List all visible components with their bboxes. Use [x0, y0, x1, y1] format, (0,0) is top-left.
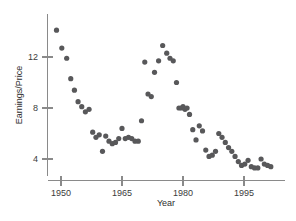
x-tick-label: 1950: [51, 188, 71, 198]
data-point: [184, 105, 189, 110]
data-point: [152, 70, 157, 75]
data-point: [156, 58, 161, 63]
data-point: [245, 158, 250, 163]
y-axis-title: Earnings/Price: [14, 66, 24, 125]
data-point: [59, 45, 64, 50]
data-point: [258, 156, 263, 161]
data-point: [255, 165, 260, 170]
data-point: [90, 130, 95, 135]
data-point: [200, 128, 205, 133]
y-tick-label: 8: [33, 103, 38, 113]
data-point: [139, 118, 144, 123]
scatter-chart: 4812 1950196519801995 Earnings/Price Yea…: [0, 0, 296, 221]
data-point: [203, 147, 208, 152]
data-point: [190, 127, 195, 132]
data-point: [75, 99, 80, 104]
data-point: [79, 104, 84, 109]
data-point: [68, 76, 73, 81]
data-point: [142, 60, 147, 65]
data-point: [72, 88, 77, 93]
data-point: [187, 112, 192, 117]
y-tick-label: 4: [33, 154, 38, 164]
data-point: [223, 140, 228, 145]
data-point: [136, 139, 141, 144]
data-point: [193, 137, 198, 142]
y-tick-label: 12: [28, 52, 38, 62]
chart-canvas: 4812 1950196519801995 Earnings/Price Yea…: [0, 0, 296, 221]
x-tick-label: 1965: [112, 188, 132, 198]
data-point: [268, 164, 273, 169]
data-point: [97, 132, 102, 137]
data-point: [232, 154, 237, 159]
data-point: [103, 133, 108, 138]
data-point: [197, 123, 202, 128]
data-point: [86, 107, 91, 112]
data-point: [64, 56, 69, 61]
data-point: [149, 94, 154, 99]
data-points-layer: [54, 28, 274, 171]
data-point: [160, 43, 165, 48]
data-point: [54, 28, 59, 33]
data-point: [229, 149, 234, 154]
data-point: [100, 149, 105, 154]
x-axis-title: Year: [157, 198, 175, 208]
data-point: [213, 149, 218, 154]
data-point: [171, 58, 176, 63]
x-axis-ticks: 1950196519801995: [51, 176, 254, 199]
y-axis-ticks: 4812: [28, 52, 53, 164]
data-point: [174, 80, 179, 85]
data-point: [116, 136, 121, 141]
x-tick-label: 1980: [173, 188, 193, 198]
data-point: [219, 135, 224, 140]
data-point: [119, 126, 124, 131]
data-point: [164, 51, 169, 56]
x-tick-label: 1995: [234, 188, 254, 198]
